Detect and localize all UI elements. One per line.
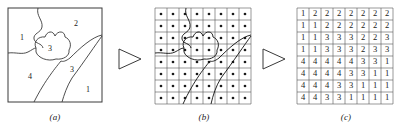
- matrix-cell: 2: [385, 8, 389, 18]
- matrix-cell: 4: [301, 68, 306, 78]
- matrix-cell: 1: [301, 8, 305, 18]
- matrix-cell: 4: [301, 92, 306, 102]
- matrix-cell: 3: [337, 92, 341, 102]
- panel-b-caption: (b): [150, 112, 258, 122]
- figure-root: 1 2 3 4 3 1 (a): [0, 0, 400, 133]
- matrix-cell: 3: [361, 56, 365, 66]
- boundary-region-3-blob: [35, 32, 70, 60]
- matrix-cell: 4: [313, 80, 318, 90]
- boundary-1-4: [8, 48, 36, 53]
- matrix-cell: 2: [385, 20, 389, 30]
- matrix-cell: 3: [349, 68, 353, 78]
- matrix-cell: 2: [361, 32, 365, 42]
- matrix-cell: 4: [301, 56, 306, 66]
- matrix-cell: 1: [385, 68, 389, 78]
- matrix-cell: 3: [349, 44, 353, 54]
- matrix-cell: 3: [385, 32, 389, 42]
- matrix-cell: 1: [301, 32, 305, 42]
- matrix-cell: 1: [301, 44, 305, 54]
- panel-c: 1222222211222222113332231133323344444331…: [292, 0, 400, 133]
- region-map-grid-b: [150, 0, 258, 110]
- region-label-3-band: 3: [70, 65, 74, 74]
- label-matrix-c: 1222222211222222113332231133323344444331…: [292, 0, 400, 110]
- matrix-cell: 3: [361, 68, 365, 78]
- arrow-1-container: [108, 0, 152, 133]
- region-label-3-blob: 3: [48, 44, 52, 53]
- matrix-cell: 3: [373, 44, 377, 54]
- matrix-cell: 1: [313, 44, 317, 54]
- matrix-cell: 2: [349, 8, 353, 18]
- matrix-cell: 1: [361, 80, 365, 90]
- matrix-cell: 2: [337, 20, 341, 30]
- matrix-cell: 4: [313, 92, 318, 102]
- matrix-cell: 3: [373, 56, 377, 66]
- boundary-band-upper: [34, 35, 102, 102]
- matrix-cell: 1: [373, 68, 377, 78]
- matrix-cell: 4: [337, 68, 342, 78]
- matrix-cell: 4: [325, 80, 330, 90]
- matrix-cell: 1: [385, 56, 389, 66]
- matrix-cell: 3: [337, 44, 341, 54]
- matrix-cell: 2: [361, 8, 365, 18]
- matrix-cell: 3: [337, 32, 341, 42]
- region-label-2: 2: [74, 19, 78, 28]
- matrix-cell: 2: [325, 20, 329, 30]
- matrix-cell: 4: [325, 68, 330, 78]
- matrix-cell: 2: [313, 8, 317, 18]
- matrix-cell: 1: [313, 20, 317, 30]
- matrix-cell: 4: [301, 80, 306, 90]
- arrow-2-container: [252, 0, 296, 133]
- region-label-1-top: 1: [20, 33, 24, 42]
- matrix-cell: 2: [337, 8, 341, 18]
- arrow-right-icon: [259, 46, 289, 72]
- matrix-cell: 1: [301, 20, 305, 30]
- matrix-grid: [297, 8, 393, 104]
- matrix-cell: 3: [349, 32, 353, 42]
- matrix-cell: 4: [313, 68, 318, 78]
- matrix-cell: 2: [325, 8, 329, 18]
- panel-a: 1 2 3 4 3 1 (a): [0, 0, 110, 133]
- matrix-cell: 1: [385, 92, 389, 102]
- region-map-a: 1 2 3 4 3 1: [0, 0, 110, 110]
- arrow-right-icon-shape: [119, 49, 141, 69]
- matrix-cell: 4: [337, 56, 342, 66]
- matrix-cell: 1: [373, 92, 377, 102]
- panel-c-caption: (c): [292, 112, 400, 122]
- region-label-1-bottom: 1: [86, 85, 90, 94]
- matrix-cell: 1: [313, 32, 317, 42]
- matrix-cell: 2: [349, 20, 353, 30]
- matrix-cell: 3: [325, 92, 329, 102]
- boundary-band-lower: [62, 36, 102, 102]
- arrow-right-icon: [115, 46, 145, 72]
- matrix-cell: 3: [337, 80, 341, 90]
- arrow-right-icon-shape: [263, 49, 285, 69]
- matrix-cell: 1: [385, 80, 389, 90]
- matrix-cell: 3: [325, 32, 329, 42]
- matrix-cell: 2: [373, 8, 377, 18]
- matrix-cell: 4: [313, 56, 318, 66]
- matrix-cell: 2: [361, 20, 365, 30]
- panel-b: (b): [150, 0, 258, 133]
- matrix-cell: 4: [325, 56, 330, 66]
- matrix-cell: 3: [349, 80, 353, 90]
- panel-a-caption: (a): [0, 112, 110, 122]
- matrix-cell: 4: [349, 56, 354, 66]
- matrix-cell: 1: [349, 92, 353, 102]
- matrix-cell: 2: [361, 44, 365, 54]
- matrix-cell: 1: [373, 80, 377, 90]
- matrix-cell: 2: [373, 20, 377, 30]
- matrix-cell: 2: [373, 32, 377, 42]
- region-label-4: 4: [28, 72, 32, 81]
- matrix-cell: 3: [325, 44, 329, 54]
- matrix-cell: 1: [361, 92, 365, 102]
- matrix-cell: 3: [385, 44, 389, 54]
